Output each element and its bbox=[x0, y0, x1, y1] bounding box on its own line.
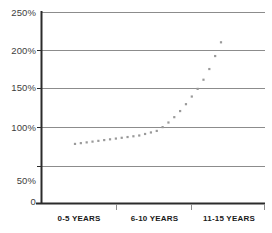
data-point-marker bbox=[80, 142, 82, 144]
data-point-marker bbox=[86, 141, 88, 143]
x-label-6-10-years: 6-10 YEARS bbox=[117, 214, 192, 223]
data-point-marker bbox=[91, 141, 93, 143]
data-point-marker bbox=[115, 137, 117, 139]
y-label-150: 150% bbox=[11, 83, 36, 93]
data-point-marker bbox=[156, 130, 158, 132]
x-label-11-15-years: 11-15 YEARS bbox=[190, 214, 268, 223]
data-point-marker bbox=[197, 88, 199, 90]
data-point-marker bbox=[150, 131, 152, 133]
data-point-marker bbox=[138, 134, 140, 136]
data-point-marker bbox=[167, 121, 169, 123]
data-point-marker bbox=[132, 135, 134, 137]
data-point-marker bbox=[185, 103, 187, 105]
x-label-0-5-years: 0-5 YEARS bbox=[41, 214, 117, 223]
data-point-marker bbox=[74, 143, 76, 145]
y-label-250: 250% bbox=[11, 8, 36, 18]
data-point-marker bbox=[121, 137, 123, 139]
y-label-0: 0 bbox=[31, 197, 36, 207]
y-axis-labels: 250% 200% 150% 100% 50% 0 bbox=[0, 0, 36, 233]
chart-container: 250% 200% 150% 100% 50% 0 0-5 YEARS 6-10… bbox=[0, 0, 272, 233]
data-point-marker bbox=[179, 110, 181, 112]
y-label-200: 200% bbox=[11, 46, 36, 56]
data-point-marker bbox=[97, 140, 99, 142]
data-point-marker bbox=[202, 79, 204, 81]
data-series-dotted-line bbox=[74, 41, 222, 145]
chart-plot-svg bbox=[0, 0, 272, 233]
data-point-marker bbox=[126, 136, 128, 138]
y-label-50: 50% bbox=[17, 176, 36, 186]
data-point-marker bbox=[173, 116, 175, 118]
data-point-marker bbox=[162, 126, 164, 128]
data-point-marker bbox=[191, 95, 193, 97]
data-point-marker bbox=[144, 133, 146, 135]
data-point-marker bbox=[109, 138, 111, 140]
y-axis-ticks bbox=[37, 51, 41, 167]
data-point-marker bbox=[103, 139, 105, 141]
data-point-marker bbox=[208, 68, 210, 70]
data-point-marker bbox=[214, 55, 216, 57]
data-point-marker bbox=[220, 41, 222, 43]
y-label-100: 100% bbox=[11, 123, 36, 133]
x-axis-ticks bbox=[117, 204, 265, 210]
